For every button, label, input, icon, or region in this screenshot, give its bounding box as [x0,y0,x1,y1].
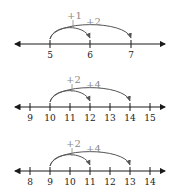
number-line-1: 567+1+2 [15,10,165,60]
tick-label: 6 [87,50,93,60]
jump-arc [50,28,90,39]
jump-label: +4 [86,143,101,154]
number-line-diagram: 567+1+29101112131415+2+4891011121314+2+4 [0,0,177,196]
number-line-3: 891011121314+2+4 [15,138,165,187]
jump-label: +1 [67,10,82,21]
jump-label: +2 [86,16,101,27]
jump-arc [50,91,90,102]
tick-label: 12 [104,177,115,187]
jump-label: +4 [86,79,101,90]
tick-label: 10 [64,177,76,187]
tick-label: 15 [144,113,156,123]
tick-label: 12 [84,113,95,123]
tick-label: 5 [47,50,53,60]
tick-label: 11 [84,177,95,187]
jump-label: +2 [66,74,81,85]
tick-label: 14 [124,113,136,123]
tick-label: 10 [44,113,56,123]
jump-arc [50,155,90,166]
tick-label: 11 [64,113,75,123]
jump-label: +2 [66,138,81,149]
tick-label: 7 [128,50,134,60]
tick-label: 9 [27,113,33,123]
tick-label: 9 [47,177,53,187]
tick-label: 13 [124,177,136,187]
tick-label: 13 [104,113,116,123]
tick-label: 14 [144,177,156,187]
number-line-2: 9101112131415+2+4 [15,74,165,123]
tick-label: 8 [27,177,33,187]
